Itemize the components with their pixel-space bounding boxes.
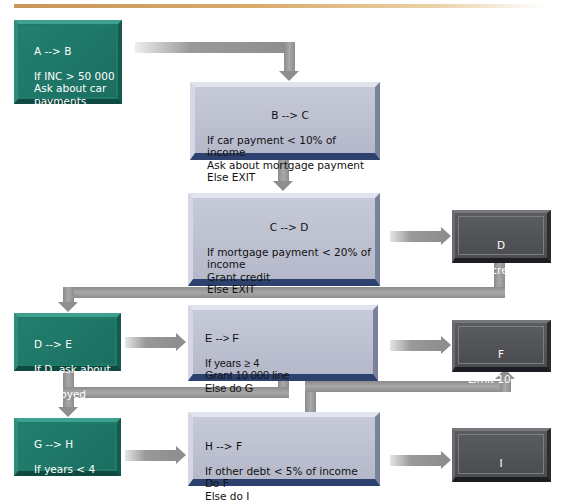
connector-to-d-e <box>63 287 74 303</box>
node-d: D Grant credit line <box>452 210 551 263</box>
node-d-e-text: If D, ask about years employed <box>34 363 117 401</box>
node-f-title: F <box>455 348 547 361</box>
connector-e-f-to-f <box>390 340 442 351</box>
node-c-d: C --> D If mortgage payment < 20% of inc… <box>188 193 380 286</box>
arrowhead-to-b-c <box>279 71 299 81</box>
connector-h-f-to-i <box>390 455 442 466</box>
node-b-c: B --> C If car payment < 10% of income A… <box>190 82 380 160</box>
node-i: I Limit 3000 <box>452 428 551 482</box>
node-h-f-title: H --> F <box>205 440 358 453</box>
connector-g-h-to-h-f <box>125 450 177 461</box>
arrowhead-to-f <box>441 336 451 354</box>
arrowhead-to-e-f <box>176 333 186 351</box>
node-b-c-title: B --> C <box>207 109 373 122</box>
node-h-f: H --> F If other debt < 5% of income Do … <box>188 412 380 486</box>
node-d-text: Grant credit line <box>455 264 547 277</box>
connector-d-e-to-e-f <box>125 337 177 348</box>
node-e-f: E --> F If years ≥ 4 Grant 10 000 line E… <box>188 305 378 381</box>
node-d-title: D <box>455 239 547 252</box>
node-f: F Limit 10 000 <box>452 320 551 372</box>
node-g-h-text: If years < 4 Ask about other debt <box>34 463 95 501</box>
arrowhead-to-d-e <box>58 302 78 312</box>
node-g-h-title: G --> H <box>34 438 95 451</box>
node-a-b-text: If INC > 50 000 Ask about car payments E… <box>34 70 115 120</box>
arrowhead-to-h-f <box>176 446 186 464</box>
connector-a-b-horizontal <box>135 42 295 53</box>
node-e-f-title: E --> F <box>205 332 289 345</box>
node-g-h: G --> H If years < 4 Ask about other deb… <box>14 418 121 476</box>
node-h-f-text: If other debt < 5% of income Do F Else d… <box>205 465 358 503</box>
node-a-b-title: A --> B <box>34 45 115 58</box>
node-i-text: Limit 3000 <box>455 482 547 495</box>
connector-a-b-vertical <box>284 42 295 72</box>
node-b-c-text: If car payment < 10% of income Ask about… <box>207 134 373 184</box>
node-c-d-text: If mortgage payment < 20% of income Gran… <box>207 246 371 296</box>
node-a-b: A --> B If INC > 50 000 Ask about car pa… <box>14 20 122 104</box>
node-e-f-text: If years ≥ 4 Grant 10 000 line Else do G <box>205 357 289 395</box>
node-d-e: D --> E If D, ask about years employed <box>14 313 121 371</box>
top-rule <box>14 4 544 8</box>
node-f-text: Limit 10 000 <box>455 373 547 386</box>
node-d-e-title: D --> E <box>34 338 117 351</box>
node-c-d-title: C --> D <box>207 221 371 234</box>
connector-c-d <box>390 231 442 242</box>
arrowhead-to-i <box>441 451 451 469</box>
connector-h-f-up <box>305 390 316 412</box>
arrowhead-to-d <box>441 227 451 245</box>
node-i-title: I <box>455 457 547 470</box>
